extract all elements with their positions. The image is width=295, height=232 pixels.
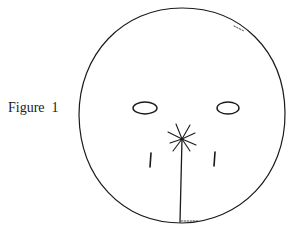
left-eye: [133, 102, 157, 114]
left-cheek-mark: [150, 153, 151, 167]
face-diagram: [0, 0, 295, 232]
center-line: [180, 139, 182, 222]
right-eye: [217, 102, 239, 114]
face-outline: [79, 8, 285, 223]
right-cheek-mark: [214, 152, 215, 166]
